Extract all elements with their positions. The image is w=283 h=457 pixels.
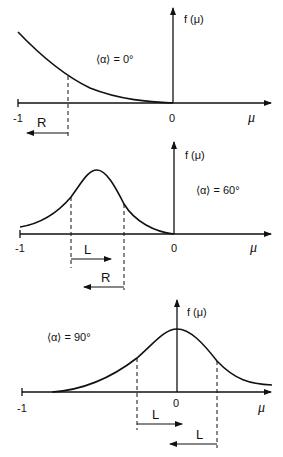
condition-label: ⟨α⟩ = 0°: [96, 53, 133, 65]
l-label: L: [84, 242, 91, 257]
r-label: R: [101, 270, 110, 285]
l-label: L: [196, 427, 203, 442]
distribution-curve: [20, 170, 174, 234]
condition-label: ⟨α⟩ = 60°: [196, 184, 240, 196]
x-axis-label: μ: [247, 110, 255, 125]
tick-minus-one: -1: [13, 112, 23, 124]
y-axis-label: f (μ): [187, 306, 207, 318]
l-label: L: [152, 407, 159, 422]
panel-0deg: R -1 0 μ f (μ) ⟨α⟩ = 0°: [13, 8, 271, 138]
r-label: R: [37, 115, 46, 130]
distribution-curve: [18, 32, 173, 103]
distribution-diagram: R -1 0 μ f (μ) ⟨α⟩ = 0° L R -1 0 μ f (μ)…: [0, 0, 283, 457]
y-axis-label: f (μ): [184, 13, 204, 25]
panel-90deg: L L -1 0 μ f (μ) ⟨α⟩ = 90°: [17, 300, 272, 448]
tick-minus-one: -1: [17, 402, 27, 414]
condition-label: ⟨α⟩ = 90°: [47, 331, 91, 343]
tick-zero: 0: [171, 242, 177, 254]
panel-60deg: L R -1 0 μ f (μ) ⟨α⟩ = 60°: [15, 142, 271, 290]
x-axis-label: μ: [257, 400, 265, 415]
x-axis-label: μ: [249, 240, 257, 255]
y-axis-label: f (μ): [185, 149, 205, 161]
tick-zero: 0: [173, 397, 179, 409]
tick-zero: 0: [169, 112, 175, 124]
tick-minus-one: -1: [15, 242, 25, 254]
